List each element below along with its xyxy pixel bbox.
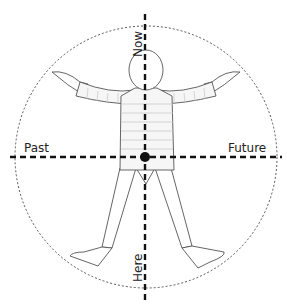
time-space-diagram: Now Here Past Future: [0, 0, 287, 306]
label-now: Now: [131, 31, 145, 57]
label-future: Future: [228, 141, 266, 155]
center-dot: [140, 152, 150, 162]
label-past: Past: [24, 141, 49, 155]
label-here: Here: [131, 254, 145, 282]
